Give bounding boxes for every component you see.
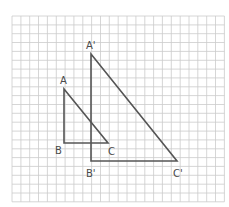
grid-lines xyxy=(12,16,224,202)
vertex-label-c-prime: C' xyxy=(173,168,183,179)
triangle-abc xyxy=(64,89,108,143)
vertex-label-a: A xyxy=(60,75,67,86)
vertex-label-a-prime: A' xyxy=(86,40,96,51)
grid-diagram: A B C A' B' C' xyxy=(0,0,229,207)
vertex-label-c: C xyxy=(108,146,115,157)
vertex-label-b: B xyxy=(55,145,62,156)
triangle-a-prime-b-prime-c-prime xyxy=(91,54,177,161)
vertex-label-b-prime: B' xyxy=(86,168,96,179)
